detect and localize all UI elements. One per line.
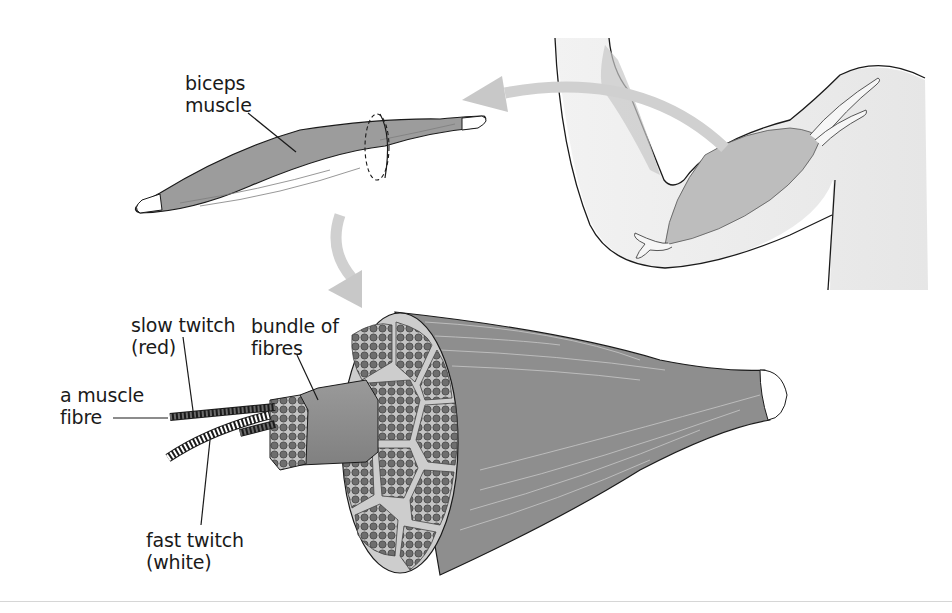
leader-fast-twitch bbox=[201, 440, 210, 525]
fibre-bundle bbox=[270, 380, 378, 470]
bottom-divider bbox=[0, 601, 952, 602]
label-fast-twitch: fast twitch (white) bbox=[146, 529, 244, 573]
muscle-cross-section bbox=[341, 312, 787, 575]
biceps-muscle-illustration bbox=[135, 114, 486, 213]
arm-illustration bbox=[555, 38, 928, 290]
label-muscle-fibre: a muscle fibre bbox=[60, 384, 144, 428]
muscle-diagram: biceps muscle slow twitch (red) bundle o… bbox=[0, 0, 952, 613]
diagram-illustration bbox=[0, 0, 952, 613]
label-slow-twitch: slow twitch (red) bbox=[131, 314, 235, 358]
label-bundle-of-fibres: bundle of fibres bbox=[251, 315, 339, 359]
label-biceps-muscle: biceps muscle bbox=[185, 72, 252, 116]
arrow-biceps-to-section bbox=[328, 215, 362, 308]
muscle-fibres bbox=[168, 407, 275, 458]
